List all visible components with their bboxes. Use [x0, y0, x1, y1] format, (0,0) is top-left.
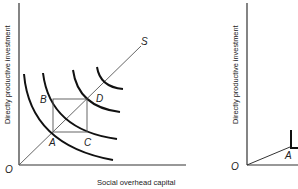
right-panel: A O Directly productive investment	[231, 3, 298, 172]
point-label-c: C	[84, 137, 92, 148]
right-path-line	[247, 147, 290, 165]
left-y-axis-label: Directly productive investment	[3, 25, 12, 124]
origin-label-right: O	[231, 161, 239, 172]
left-x-axis-label: Social overhead capital	[97, 178, 176, 187]
point-label-d: D	[96, 93, 103, 104]
left-panel: B D A C S O Directly productive investme…	[3, 3, 186, 187]
point-label-a: A	[48, 137, 56, 148]
right-y-axis-label: Directly productive investment	[231, 25, 240, 124]
origin-label-left: O	[5, 164, 13, 175]
expansion-path-ray	[19, 46, 141, 165]
ray-label-s: S	[141, 36, 148, 47]
right-step-path	[291, 130, 298, 148]
diagram-canvas: B D A C S O Directly productive investme…	[0, 0, 298, 189]
point-label-a-right: A	[284, 150, 292, 161]
point-label-b: B	[40, 94, 47, 105]
